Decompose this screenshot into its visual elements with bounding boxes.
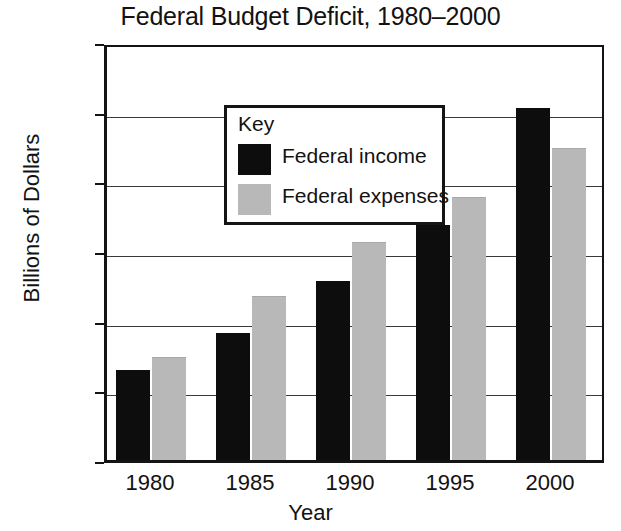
legend-swatch-icon-federal-expenses <box>238 184 271 215</box>
bar-income-1985 <box>216 333 250 460</box>
y-tick-mark <box>95 114 104 116</box>
bar-expenses-1995 <box>452 197 486 460</box>
x-tick-label-2000: 2000 <box>490 470 610 496</box>
y-tick-mark <box>95 392 104 394</box>
bar-income-1995 <box>416 225 450 460</box>
legend-key-box: Key Federal income Federal expenses <box>224 105 445 225</box>
bar-income-1980 <box>116 370 150 460</box>
bar-expenses-1985 <box>252 296 286 460</box>
bar-expenses-1990 <box>352 242 386 460</box>
bar-income-1990 <box>316 281 350 460</box>
legend-label-federal-expenses: Federal expenses <box>282 184 449 208</box>
legend-swatch-icon-federal-income <box>238 144 271 175</box>
bar-income-2000 <box>516 108 550 460</box>
y-tick-mark <box>95 44 104 46</box>
plot-area: Key Federal income Federal expenses <box>104 45 604 463</box>
bar-expenses-2000 <box>552 148 586 460</box>
bar-expenses-1980 <box>152 357 186 460</box>
chart-title: Federal Budget Deficit, 1980–2000 <box>0 2 621 31</box>
bar-chart-figure: Federal Budget Deficit, 1980–2000 Billio… <box>0 0 621 531</box>
y-tick-mark <box>95 253 104 255</box>
legend-title: Key <box>238 112 274 136</box>
y-tick-mark <box>95 462 104 464</box>
y-axis-label: Billions of Dollars <box>19 18 45 418</box>
y-tick-mark <box>95 183 104 185</box>
legend-label-federal-income: Federal income <box>282 144 427 168</box>
y-tick-mark <box>95 323 104 325</box>
x-axis-label: Year <box>0 500 621 526</box>
